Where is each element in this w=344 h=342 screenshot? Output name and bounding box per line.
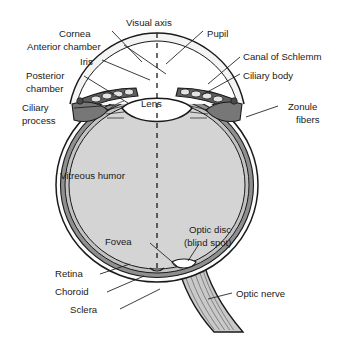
label-visual-axis: Visual axis — [126, 17, 172, 28]
leader-zonule-fibers — [246, 106, 278, 117]
label-iris: Iris — [80, 56, 93, 67]
label-posterior-chamber-line1: Posterior — [26, 70, 65, 81]
label-fovea: Fovea — [105, 236, 132, 247]
label-cornea: Cornea — [59, 28, 91, 39]
label-ciliary-body: Ciliary body — [243, 70, 293, 81]
label-zonule-fibers-line2: fibers — [296, 114, 320, 125]
label-optic-disc-line2: (blind spot) — [184, 237, 231, 248]
leader-sclera — [120, 289, 160, 309]
label-zonule-fibers-line1: Zonule — [288, 101, 317, 112]
label-vitreous-humor: Vitreous humor — [60, 170, 126, 181]
label-optic-disc-line1: Optic disc — [189, 224, 231, 235]
label-sclera: Sclera — [70, 304, 98, 315]
eye-cross-section-illustration: Cornea Visual axis Pupil Anterior chambe… — [0, 0, 344, 342]
label-optic-nerve: Optic nerve — [236, 288, 285, 299]
label-lens: Lens — [141, 98, 162, 109]
label-pupil: Pupil — [207, 28, 228, 39]
eye-anatomy-figure: Cornea Visual axis Pupil Anterior chambe… — [0, 0, 344, 342]
canal-of-schlemm-marker — [231, 98, 237, 104]
canal-of-schlemm-marker-left — [77, 98, 83, 104]
label-retina: Retina — [55, 268, 83, 279]
label-ciliary-process-line1: Ciliary — [22, 102, 49, 113]
label-canal-of-schlemm: Canal of Schlemm — [243, 51, 321, 62]
label-posterior-chamber-line2: chamber — [26, 83, 64, 94]
leader-choroid — [107, 276, 144, 292]
label-anterior-chamber: Anterior chamber — [27, 41, 101, 52]
label-ciliary-process-line2: process — [22, 115, 56, 126]
label-choroid: Choroid — [55, 286, 89, 297]
